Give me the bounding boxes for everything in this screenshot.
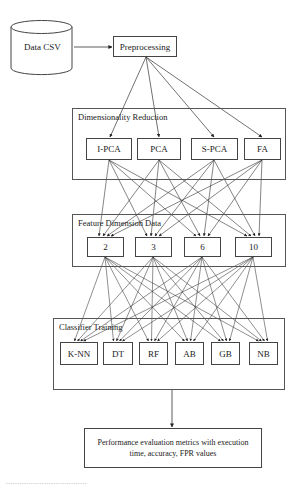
dimension-label: 3 bbox=[151, 242, 156, 252]
dimensionality-reduction-title: Dimensionality Reduction bbox=[78, 112, 167, 122]
method-box-pca: PCA bbox=[137, 138, 181, 160]
method-label: I-PCA bbox=[97, 144, 121, 154]
feature-dimension-title: Feature Dimension Data bbox=[78, 218, 161, 228]
classifier-box-dt: DT bbox=[103, 342, 133, 365]
dimension-box-3: 3 bbox=[135, 237, 172, 257]
classifier-training-title: Classifier Training bbox=[59, 322, 123, 332]
method-box-fa: FA bbox=[244, 138, 281, 160]
dimension-box-6: 6 bbox=[184, 237, 221, 257]
performance-evaluation-label: Performance evaluation metrics with exec… bbox=[91, 437, 255, 459]
method-label: S-PCA bbox=[202, 144, 228, 154]
performance-evaluation-box: Performance evaluation metrics with exec… bbox=[84, 428, 262, 468]
preprocessing-box: Preprocessing bbox=[113, 36, 177, 57]
figure-caption: .................................... bbox=[6, 478, 87, 486]
method-label: PCA bbox=[150, 144, 168, 154]
data-csv-label: Data CSV bbox=[24, 42, 61, 52]
dimension-label: 2 bbox=[103, 242, 108, 252]
classifier-box-nb: NB bbox=[249, 342, 278, 365]
dimension-box-10: 10 bbox=[235, 237, 272, 257]
classifier-label: RF bbox=[148, 349, 159, 359]
classifier-label: GB bbox=[219, 349, 232, 359]
dimension-label: 10 bbox=[249, 242, 258, 252]
preprocessing-label: Preprocessing bbox=[120, 42, 171, 52]
classifier-box-ab: AB bbox=[175, 342, 204, 365]
classifier-label: AB bbox=[183, 349, 196, 359]
classifier-label: NB bbox=[257, 349, 270, 359]
method-label: FA bbox=[257, 144, 268, 154]
classifier-box-gb: GB bbox=[211, 342, 240, 365]
dimension-box-2: 2 bbox=[87, 237, 124, 257]
method-box-spca: S-PCA bbox=[191, 138, 238, 160]
classifier-label: DT bbox=[112, 349, 124, 359]
classifier-label: K-NN bbox=[68, 349, 91, 359]
method-box-ipca: I-PCA bbox=[86, 138, 132, 160]
dimension-label: 6 bbox=[200, 242, 205, 252]
classifier-box-rf: RF bbox=[139, 342, 168, 365]
classifier-box-knn: K-NN bbox=[60, 342, 98, 365]
